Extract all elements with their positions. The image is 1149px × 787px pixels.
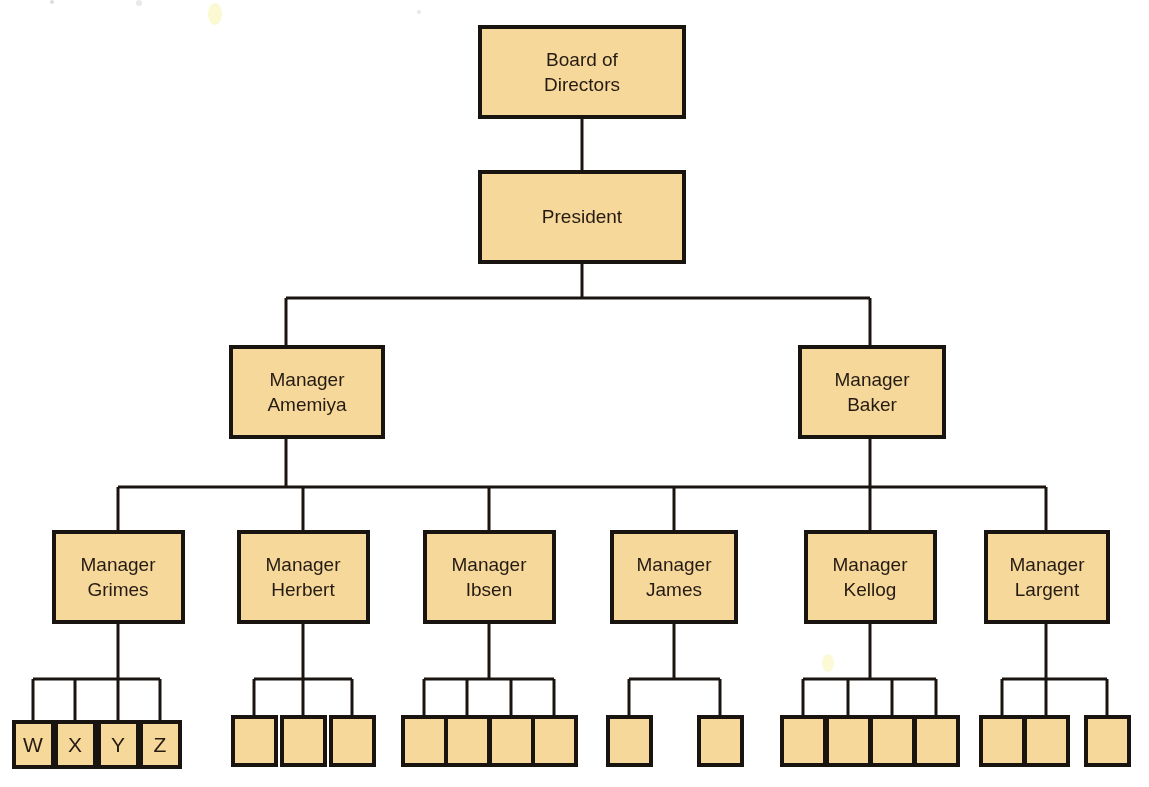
node-manager-herbert-box[interactable] xyxy=(239,532,368,622)
node-president-label-line1: President xyxy=(542,206,623,227)
leaf-node-z-label: Z xyxy=(154,733,167,756)
leaf-node-ibsen-1[interactable] xyxy=(403,717,446,765)
node-manager-kellog-label-line2: Kellog xyxy=(844,579,897,600)
node-manager-kellog[interactable]: Manager Kellog xyxy=(806,532,935,622)
scan-smudge-top xyxy=(208,3,222,25)
leaf-node-largent-1[interactable] xyxy=(981,717,1024,765)
leaf-group-largent xyxy=(981,717,1129,765)
node-manager-amemiya-box[interactable] xyxy=(231,347,383,437)
leaf-group-kellog xyxy=(782,717,958,765)
node-manager-amemiya-label-line2: Amemiya xyxy=(267,394,347,415)
node-manager-james-box[interactable] xyxy=(612,532,736,622)
node-manager-james-label-line2: James xyxy=(646,579,702,600)
leaf-node-james-1[interactable] xyxy=(608,717,651,765)
node-manager-grimes[interactable]: Manager Grimes xyxy=(54,532,183,622)
leaf-node-x-label: X xyxy=(68,733,82,756)
node-manager-baker-box[interactable] xyxy=(800,347,944,437)
node-president[interactable]: President xyxy=(480,172,684,262)
leaf-node-ibsen-4[interactable] xyxy=(533,717,576,765)
scan-smudge-mid xyxy=(822,654,834,672)
node-manager-largent-label-line2: Largent xyxy=(1015,579,1080,600)
node-manager-amemiya-label-line1: Manager xyxy=(270,369,346,390)
org-chart-diagram: Board of Directors President Manager Ame… xyxy=(0,0,1149,787)
node-board-of-directors-label-line1: Board of xyxy=(546,49,619,70)
node-manager-ibsen-label-line2: Ibsen xyxy=(466,579,512,600)
node-manager-largent-label-line1: Manager xyxy=(1010,554,1086,575)
leaf-node-ibsen-3[interactable] xyxy=(490,717,533,765)
leaf-node-kellog-3[interactable] xyxy=(871,717,914,765)
leaf-node-largent-3[interactable] xyxy=(1086,717,1129,765)
leaf-node-herbert-2[interactable] xyxy=(282,717,325,765)
leaf-node-ibsen-2[interactable] xyxy=(446,717,489,765)
scan-speck-c xyxy=(417,10,421,14)
leaf-node-kellog-2[interactable] xyxy=(827,717,870,765)
leaf-node-herbert-1[interactable] xyxy=(233,717,276,765)
node-manager-james-label-line1: Manager xyxy=(637,554,713,575)
leaf-node-w-label: W xyxy=(23,733,43,756)
node-manager-baker-label-line2: Baker xyxy=(847,394,897,415)
node-manager-kellog-label-line1: Manager xyxy=(833,554,909,575)
node-board-of-directors-label-line2: Directors xyxy=(544,74,620,95)
node-manager-baker[interactable]: Manager Baker xyxy=(800,347,944,437)
node-manager-grimes-label-line1: Manager xyxy=(81,554,157,575)
leaf-group-ibsen xyxy=(403,717,576,765)
leaf-node-largent-2[interactable] xyxy=(1025,717,1068,765)
node-manager-ibsen-box[interactable] xyxy=(425,532,554,622)
node-manager-herbert[interactable]: Manager Herbert xyxy=(239,532,368,622)
node-manager-amemiya[interactable]: Manager Amemiya xyxy=(231,347,383,437)
node-board-of-directors-box[interactable] xyxy=(480,27,684,117)
node-manager-baker-label-line1: Manager xyxy=(835,369,911,390)
node-board-of-directors[interactable]: Board of Directors xyxy=(480,27,684,117)
leaf-node-kellog-4[interactable] xyxy=(915,717,958,765)
leaf-node-z[interactable]: Z xyxy=(141,722,180,767)
node-manager-grimes-label-line2: Grimes xyxy=(87,579,148,600)
node-manager-james[interactable]: Manager James xyxy=(612,532,736,622)
leaf-node-kellog-1[interactable] xyxy=(782,717,825,765)
leaf-group-herbert xyxy=(233,717,374,765)
scan-speck-a xyxy=(50,0,54,4)
node-manager-largent[interactable]: Manager Largent xyxy=(986,532,1108,622)
leaf-node-james-2[interactable] xyxy=(699,717,742,765)
leaf-node-y[interactable]: Y xyxy=(99,722,138,767)
node-manager-herbert-label-line2: Herbert xyxy=(271,579,335,600)
node-manager-kellog-box[interactable] xyxy=(806,532,935,622)
leaf-node-herbert-3[interactable] xyxy=(331,717,374,765)
leaf-node-y-label: Y xyxy=(111,733,125,756)
leaf-node-x[interactable]: X xyxy=(56,722,95,767)
node-manager-ibsen[interactable]: Manager Ibsen xyxy=(425,532,554,622)
node-manager-grimes-box[interactable] xyxy=(54,532,183,622)
node-manager-herbert-label-line1: Manager xyxy=(266,554,342,575)
node-manager-ibsen-label-line1: Manager xyxy=(452,554,528,575)
leaf-group-grimes: W X Y Z xyxy=(14,722,180,767)
node-manager-largent-box[interactable] xyxy=(986,532,1108,622)
scan-speck-b xyxy=(136,0,142,6)
leaf-node-w[interactable]: W xyxy=(14,722,53,767)
